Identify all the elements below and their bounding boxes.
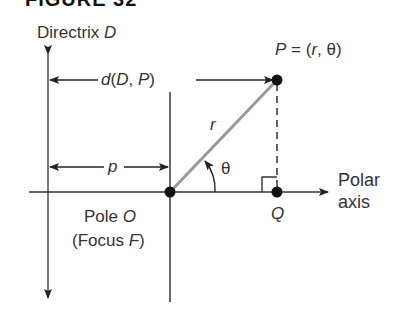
distance-dp-label: d(D, P) bbox=[101, 71, 155, 88]
pole-label: Pole O bbox=[84, 208, 136, 225]
pole-dot bbox=[165, 187, 176, 198]
radius-label: r bbox=[210, 116, 216, 133]
directrix-label: Directrix D bbox=[37, 24, 116, 41]
directrix-text: Directrix bbox=[37, 23, 99, 42]
polar-axis-label-line1: Polar bbox=[338, 171, 380, 189]
p-eq: = ( bbox=[286, 40, 311, 59]
p-var: P bbox=[275, 40, 286, 59]
pole-text: Pole bbox=[84, 207, 118, 226]
d-close: ) bbox=[149, 70, 155, 89]
p-theta: , θ) bbox=[317, 40, 342, 59]
focus-text: (Focus bbox=[72, 231, 129, 250]
d-D: D bbox=[116, 70, 128, 89]
angle-label: θ bbox=[221, 160, 230, 177]
point-q-label: Q bbox=[271, 205, 284, 222]
point-q-dot bbox=[272, 187, 283, 198]
directrix-var: D bbox=[104, 23, 116, 42]
d-comma: , bbox=[128, 70, 137, 89]
focus-label: (Focus F) bbox=[72, 232, 145, 249]
diagram-canvas bbox=[0, 0, 402, 316]
point-p-label: P = (r, θ) bbox=[275, 41, 342, 58]
angle-arc bbox=[205, 161, 215, 192]
d-P: P bbox=[138, 70, 149, 89]
point-p-dot bbox=[272, 75, 283, 86]
polar-axis-label-line2: axis bbox=[338, 193, 370, 211]
pole-var: O bbox=[123, 207, 136, 226]
polar-focus-directrix-diagram: FIGURE 32 Directrix bbox=[0, 0, 402, 316]
p-dist-label: p bbox=[108, 158, 117, 175]
focus-close: ) bbox=[139, 231, 145, 250]
focus-var: F bbox=[129, 231, 139, 250]
